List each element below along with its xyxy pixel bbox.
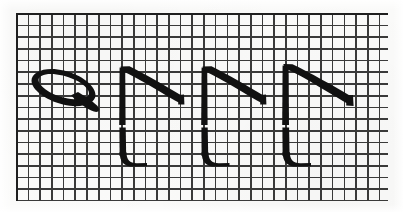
ink-drawing-layer xyxy=(0,0,403,212)
diagonal-slash-stroke xyxy=(203,66,264,104)
ink-strokes-svg xyxy=(0,0,403,212)
figure-3-stem-slash-glyph xyxy=(201,66,266,166)
stem-lower-stroke xyxy=(282,128,289,157)
figure-1-slanted-loop-glyph xyxy=(32,69,100,112)
stem-lower-stroke xyxy=(119,128,126,157)
diagonal-slash-stroke xyxy=(283,64,350,105)
figure-2-stem-slash-glyph xyxy=(119,66,184,166)
stem-lower-stroke xyxy=(201,128,208,157)
diagonal-tip xyxy=(178,95,184,105)
stem-foot-stroke xyxy=(202,152,230,167)
stem-upper-stroke xyxy=(119,68,125,126)
diagonal-tip xyxy=(260,95,266,105)
diagonal-slash-stroke xyxy=(121,66,182,104)
stem-upper-stroke xyxy=(201,68,207,126)
figure-4-stem-slash-glyph xyxy=(282,64,353,167)
scanned-graph-paper-image xyxy=(0,0,403,212)
stem-foot-stroke xyxy=(283,152,311,167)
diagonal-tip xyxy=(346,95,353,106)
stem-upper-stroke xyxy=(282,66,289,126)
stem-foot-stroke xyxy=(120,152,147,167)
